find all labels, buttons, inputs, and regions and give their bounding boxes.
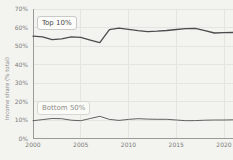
- x-tick-2000: 2000: [20, 141, 46, 149]
- y-tick-60%: 60%: [2, 24, 28, 32]
- income-share-line-chart: 0%10%20%30%40%50%60%70% 2000200520102015…: [0, 0, 233, 160]
- x-tick-2015: 2015: [163, 141, 189, 149]
- series-line-top-10-: [33, 28, 233, 43]
- top-10-percent-annotation: Top 10%: [37, 16, 77, 30]
- x-tick-2005: 2005: [68, 141, 94, 149]
- plot-area: [0, 0, 233, 160]
- x-tick-2010: 2010: [116, 141, 142, 149]
- x-tick-2020: 2020: [211, 141, 233, 149]
- y-axis-title: Income share (% total): [4, 49, 11, 129]
- bottom-50-percent-annotation: Bottom 50%: [37, 101, 90, 115]
- y-tick-70%: 70%: [2, 5, 28, 13]
